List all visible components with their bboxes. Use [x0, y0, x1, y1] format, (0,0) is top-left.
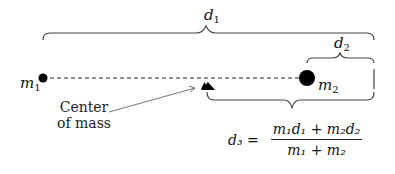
- m2-sub: 2: [332, 84, 338, 95]
- m1-sub: 1: [34, 82, 40, 93]
- d1-label: d1: [204, 8, 220, 25]
- center-of-mass-label: Center of mass: [56, 99, 112, 131]
- d2-sub: 2: [344, 42, 350, 53]
- d2-label: d2: [334, 36, 350, 53]
- d3-formula: d₃ = m₁d₁ + m₂d₂ m₁ + m₂: [228, 121, 362, 158]
- m2-label: m2: [318, 78, 339, 95]
- formula-fraction: m₁d₁ + m₂d₂ m₁ + m₂: [271, 121, 363, 158]
- center-of-mass-line-1: Center: [56, 99, 112, 115]
- d1-brace: [43, 26, 374, 40]
- d2-brace: [307, 53, 374, 63]
- formula-lhs: d₃ =: [228, 132, 259, 148]
- mass-2-dot: [299, 70, 315, 86]
- m1-label: m1: [20, 76, 41, 93]
- formula-numerator: m₁d₁ + m₂d₂: [271, 121, 363, 140]
- d3-brace: [207, 92, 374, 108]
- center-of-mass-arrow: [109, 88, 195, 112]
- d2-base: d: [334, 34, 344, 52]
- d1-sub: 1: [214, 14, 220, 25]
- center-of-mass-line-2: of mass: [56, 115, 112, 131]
- m2-base: m: [318, 76, 332, 94]
- m1-base: m: [20, 74, 34, 92]
- formula-denominator: m₁ + m₂: [287, 140, 345, 158]
- d1-base: d: [204, 6, 214, 24]
